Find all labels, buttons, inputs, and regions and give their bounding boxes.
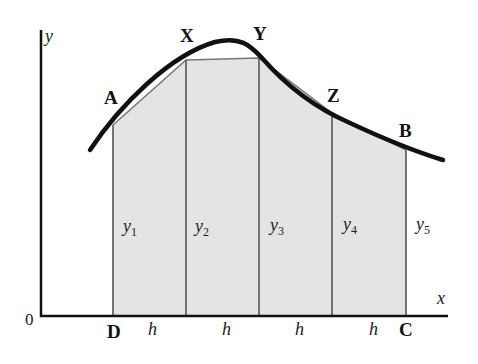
strip-width-label-3: h xyxy=(295,319,304,339)
ordinate-label-y5: y5 xyxy=(414,214,430,237)
origin-label: 0 xyxy=(25,310,34,329)
x-axis-label: x xyxy=(436,288,445,308)
point-label-A: A xyxy=(104,87,118,108)
strip-width-label-4: h xyxy=(369,319,378,339)
point-label-Y: Y xyxy=(253,23,267,44)
y-axis-label: y xyxy=(43,26,53,46)
point-label-D: D xyxy=(107,321,121,342)
point-label-Z: Z xyxy=(327,85,340,106)
point-label-B: B xyxy=(399,120,412,141)
point-label-X: X xyxy=(180,25,194,46)
strip-width-label-2: h xyxy=(222,319,231,339)
trapezium-rule-diagram: y x 0 A X Y Z B D C y1 y2 y3 y4 y5 h h h… xyxy=(0,0,478,364)
strip-width-label-1: h xyxy=(148,319,157,339)
point-label-C: C xyxy=(399,319,413,340)
